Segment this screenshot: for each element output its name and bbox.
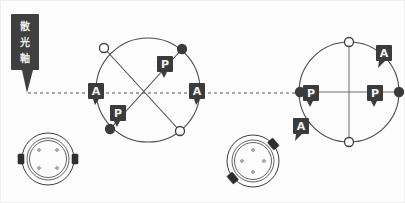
right-badge-a-sw-tail	[295, 134, 302, 141]
lens1-dot-3	[38, 167, 41, 170]
right-badge-a-sw: A	[293, 118, 309, 141]
right-badge-p-west: P	[303, 85, 319, 107]
lens2-dot-3	[241, 160, 244, 163]
left-node-bottom-left	[106, 125, 115, 134]
left-node-top-right	[178, 45, 187, 54]
right-node-top	[345, 38, 354, 47]
callout-char-3: 軸	[20, 52, 30, 64]
left-badge-a-east-label: A	[193, 85, 202, 98]
left-badge-p-upper-tail	[161, 72, 167, 78]
callout-char-1: 散	[20, 20, 31, 32]
right-node-east	[395, 88, 404, 97]
lens1-dot-4	[56, 167, 59, 170]
lens2-dot-4	[263, 160, 266, 163]
lens2-optic-ring	[235, 143, 272, 180]
lens1-dot-2	[56, 149, 59, 152]
lens2-mid-ring	[232, 140, 274, 182]
right-badge-a-sw-label: A	[297, 120, 306, 133]
diagram-panel: 散 光 軸 A A	[0, 0, 405, 203]
right-badge-p-west-tail	[307, 101, 313, 107]
left-badge-p-lower-label: P	[114, 107, 122, 120]
callout-tail	[22, 70, 33, 93]
right-badge-a-ne-tail	[378, 61, 385, 68]
callout-char-2: 光	[19, 36, 30, 48]
lens2-dot-1	[252, 149, 255, 152]
left-badge-p-upper-label: P	[161, 58, 169, 71]
contact-lens-aligned	[18, 133, 78, 185]
lens2-dot-2	[252, 171, 255, 174]
lens1-tab-east	[72, 154, 78, 164]
left-diagram: A A P P	[88, 38, 205, 142]
lens1-optic-ring	[30, 141, 67, 178]
right-badge-p-east-tail	[371, 101, 377, 107]
right-node-bottom	[345, 138, 354, 147]
diagram-canvas: 散 光 軸 A A	[0, 0, 405, 203]
left-badge-a-west-label: A	[92, 85, 101, 98]
contact-lens-rotated	[227, 135, 279, 187]
left-node-top-left	[100, 44, 109, 53]
right-diagram: P P A A	[293, 38, 404, 147]
left-badge-a-west: A	[88, 83, 104, 105]
left-node-bottom-right	[176, 127, 185, 136]
left-badge-a-east: A	[189, 83, 205, 105]
lens1-tab-west	[18, 154, 24, 164]
lens1-mid-ring	[27, 138, 69, 180]
lens1-dot-1	[38, 149, 41, 152]
astigmatism-axis-callout: 散 光 軸	[11, 14, 39, 93]
left-badge-p-lower: P	[110, 105, 126, 127]
right-badge-a-ne-label: A	[380, 47, 389, 60]
right-badge-p-east-label: P	[371, 87, 379, 100]
right-badge-p-east: P	[367, 85, 383, 107]
right-badge-a-ne: A	[376, 45, 392, 68]
right-badge-p-west-label: P	[307, 87, 315, 100]
